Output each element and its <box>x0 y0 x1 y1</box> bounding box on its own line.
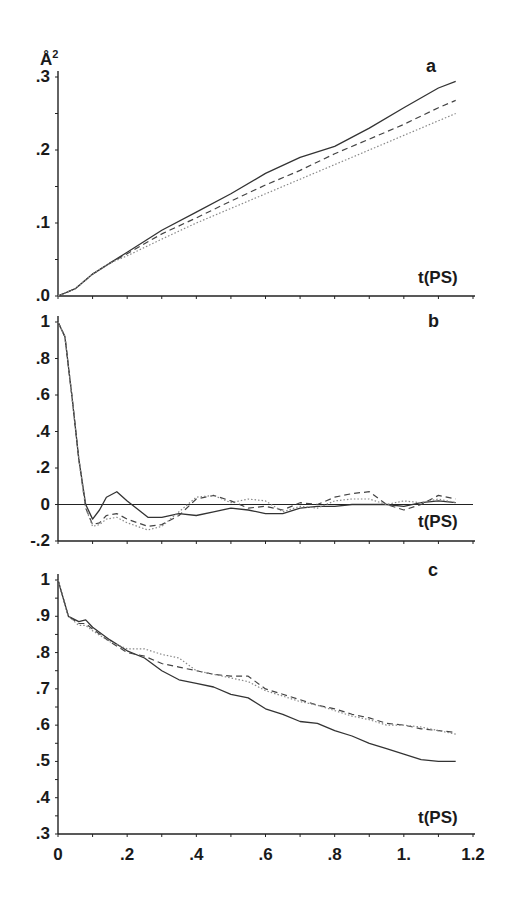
x-tick-label: .8 <box>315 846 355 863</box>
y-tick-label: .3 <box>10 825 50 842</box>
y-tick-label: .6 <box>10 386 50 403</box>
series-dotted <box>58 114 456 297</box>
y-tick-label: .1 <box>10 214 50 231</box>
series-dashed <box>58 580 456 732</box>
panel-b <box>55 316 475 544</box>
y-tick-label: .4 <box>10 423 50 440</box>
x-tick-label: 0 <box>38 846 78 863</box>
series-solid <box>58 322 456 519</box>
y-tick-label: .0 <box>10 287 50 304</box>
series-dotted <box>58 322 456 530</box>
y-tick-label: .6 <box>10 716 50 733</box>
y-tick-label: .8 <box>10 644 50 661</box>
plot-canvas <box>0 0 505 901</box>
series-solid <box>58 580 456 761</box>
x-tick-label: .4 <box>176 846 216 863</box>
panel-label-a: a <box>426 56 436 77</box>
y-tick-label: .2 <box>10 459 50 476</box>
x-tick-label: 1.2 <box>453 846 493 863</box>
x-axis-title-c: t(PS) <box>418 808 458 828</box>
y-tick-label: .4 <box>10 789 50 806</box>
y-tick-label: 0 <box>10 496 50 513</box>
x-tick-label: .6 <box>246 846 286 863</box>
y-tick-label: -.2 <box>10 532 50 549</box>
series-dashed <box>58 100 456 296</box>
figure: Å2 a t(PS) b t(PS) c t(PS) .0.1.2.3-.20.… <box>0 0 505 901</box>
superscript-2: 2 <box>52 48 58 60</box>
x-tick-label: 1. <box>384 846 424 863</box>
y-tick-label: 1 <box>10 571 50 588</box>
y-tick-label: .3 <box>10 68 50 85</box>
panel-c <box>55 574 475 837</box>
series-solid <box>58 81 456 296</box>
panel-a <box>55 71 475 299</box>
series-dotted <box>58 580 456 734</box>
panel-label-c: c <box>428 560 438 581</box>
x-axis-title-a: t(PS) <box>418 268 458 288</box>
panel-label-b: b <box>428 311 439 332</box>
y-tick-label: .2 <box>10 141 50 158</box>
angstrom-label: Å <box>40 50 52 69</box>
x-axis-title-b: t(PS) <box>418 512 458 532</box>
y-tick-label: .7 <box>10 680 50 697</box>
y-tick-label: 1 <box>10 313 50 330</box>
x-tick-label: .2 <box>107 846 147 863</box>
y-tick-label: .8 <box>10 350 50 367</box>
y-tick-label: .5 <box>10 752 50 769</box>
series-dashed <box>58 322 456 526</box>
y-tick-label: .9 <box>10 607 50 624</box>
